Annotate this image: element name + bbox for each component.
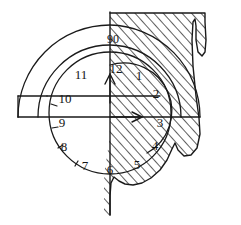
hand-drawn-clock-diagram: 90 12 1 2 3 4 5 6 7 8 9 10 11 [0, 0, 241, 225]
clock-numeral-7: 7 [82, 158, 89, 173]
figure-canvas: 90 12 1 2 3 4 5 6 7 8 9 10 11 [0, 0, 241, 225]
clock-numeral-6: 6 [107, 162, 114, 177]
clock-numeral-3: 3 [157, 115, 164, 130]
clock-numeral-12: 12 [110, 61, 123, 76]
clock-numeral-8: 8 [61, 139, 68, 154]
angle-label-90: 90 [107, 32, 119, 46]
clock-numeral-9: 9 [59, 115, 66, 130]
clock-numeral-5: 5 [134, 157, 141, 172]
clock-numeral-4: 4 [152, 138, 159, 153]
dial-tick-marks [51, 104, 78, 166]
clock-numeral-2: 2 [153, 86, 160, 101]
clock-numeral-10: 10 [59, 91, 72, 106]
clock-numeral-11: 11 [75, 67, 88, 82]
clock-numeral-1: 1 [136, 68, 143, 83]
